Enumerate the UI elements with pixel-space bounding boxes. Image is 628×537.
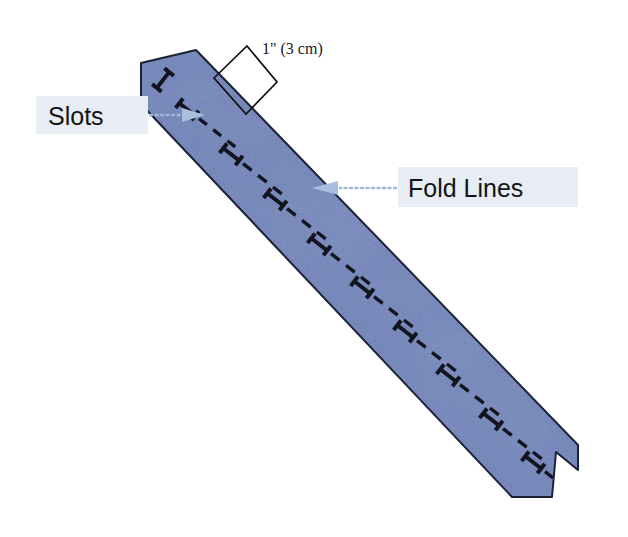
annotation-fold-lines: Fold Lines — [312, 167, 578, 207]
strip-grain — [141, 50, 578, 497]
slots-label: Slots — [48, 102, 104, 130]
paper-strip-illustration: 1" (3 cm) Slots Fold Lines — [0, 0, 628, 537]
diagram-canvas: 1" (3 cm) Slots Fold Lines — [0, 0, 628, 537]
strip-body — [141, 34, 578, 530]
dimension-label: 1" (3 cm) — [262, 40, 323, 58]
fold-lines-label: Fold Lines — [408, 174, 523, 202]
